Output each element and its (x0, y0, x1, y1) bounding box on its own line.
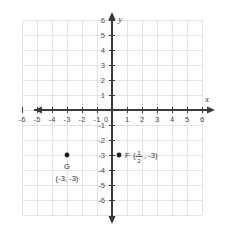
y-tick-label: 2 (101, 76, 105, 85)
point-g-marker (65, 153, 70, 158)
x-tick-label: 6 (200, 115, 204, 124)
x-tick-label: 4 (170, 115, 174, 124)
x-axis-arrow-left (34, 106, 42, 113)
y-tick-label: -2 (98, 136, 105, 145)
point-g-coordinates: (-3, -3) (56, 174, 79, 183)
point-f-fraction-numerator: 1 (137, 150, 140, 156)
point-f-group: F ( 1 2 , -3) (117, 150, 158, 164)
x-axis (34, 106, 215, 113)
x-axis-label: x (204, 95, 209, 104)
y-tick-label: 4 (101, 46, 105, 55)
x-axis-arrow-right (207, 106, 215, 113)
y-tick-label: 3 (101, 61, 105, 70)
coordinate-plane-figure: -6 -5 -4 -3 -2 -1 1 2 3 4 5 6 0 6 5 4 3 … (0, 0, 226, 232)
point-g-group: G (-3, -3) (56, 153, 79, 183)
x-tick-label: -3 (64, 115, 71, 124)
y-tick-label: -3 (98, 151, 105, 160)
x-tick-label: 1 (125, 115, 129, 124)
y-tick-label: -1 (98, 121, 105, 130)
y-axis-label: y (117, 15, 122, 24)
x-tick-label: 3 (155, 115, 159, 124)
y-axis-arrow-bottom (108, 216, 115, 224)
x-tick-label: -6 (19, 115, 26, 124)
y-tick-label: -4 (98, 166, 105, 175)
point-f-marker (117, 153, 122, 158)
y-tick-label: 6 (101, 16, 105, 25)
point-f-fraction-denominator: 2 (137, 158, 140, 164)
y-axis-arrow-top (108, 12, 115, 20)
x-tick-label: 2 (140, 115, 144, 124)
x-tick-label: -5 (34, 115, 41, 124)
y-tick-label: -5 (98, 181, 105, 190)
point-f-coordinate-suffix: , -3) (144, 151, 158, 160)
y-tick-label: 1 (101, 91, 105, 100)
y-tick-label: -6 (98, 196, 105, 205)
coordinate-plane-svg: -6 -5 -4 -3 -2 -1 1 2 3 4 5 6 0 6 5 4 3 … (0, 0, 226, 232)
y-axis (108, 12, 115, 224)
point-f-label: F (125, 151, 130, 160)
x-tick-label: -4 (49, 115, 56, 124)
point-g-label: G (64, 162, 70, 171)
x-tick-label: 5 (185, 115, 189, 124)
y-tick-label: 5 (101, 31, 105, 40)
x-tick-label: -2 (79, 115, 86, 124)
